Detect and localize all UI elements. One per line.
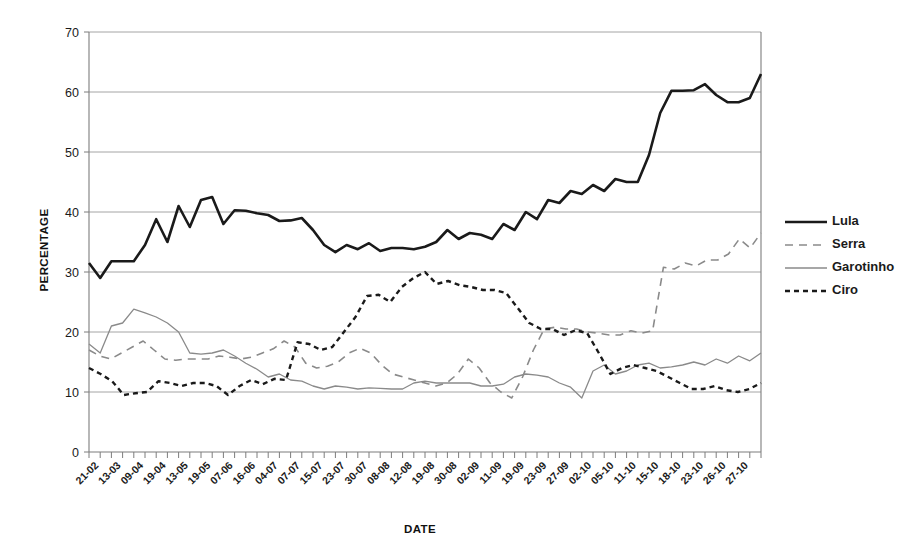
x-tick-label: 13-05 <box>163 459 191 487</box>
x-tick-label: 23-09 <box>521 459 549 487</box>
x-tick-label: 15-10 <box>633 459 661 487</box>
x-tick-label: 23-10 <box>678 459 706 487</box>
y-axis: 010203040506070 <box>65 26 761 460</box>
x-tick-label: 23-07 <box>319 459 347 487</box>
y-tick-label: 40 <box>65 206 79 220</box>
x-tick-label: 21-02 <box>73 459 101 487</box>
x-axis <box>89 452 761 458</box>
legend-label-serra: Serra <box>832 236 866 251</box>
x-tick-label: 02-10 <box>566 459 594 487</box>
x-tick-label: 08-08 <box>364 459 392 487</box>
legend-label-ciro: Ciro <box>832 282 858 297</box>
chart-canvas: 010203040506070 21-0213-0309-0419-0413-0… <box>0 0 910 551</box>
x-tick-labels: 21-0213-0309-0419-0413-0519-0507-0616-06… <box>73 459 750 487</box>
y-tick-label: 70 <box>65 26 79 40</box>
legend-label-lula: Lula <box>832 213 859 228</box>
x-tick-label: 02-09 <box>454 459 482 487</box>
x-tick-label: 13-03 <box>95 459 123 487</box>
y-axis-title: PERCENTAGE <box>38 208 50 291</box>
x-tick-label: 26-10 <box>700 459 728 487</box>
x-tick-label: 19-08 <box>409 459 437 487</box>
x-tick-label: 04-07 <box>252 459 280 487</box>
x-tick-label: 11-09 <box>477 459 504 486</box>
series-line-ciro <box>89 272 761 395</box>
grid-lines <box>89 32 761 392</box>
x-tick-label: 16-06 <box>230 459 258 487</box>
x-tick-label: 18-10 <box>655 459 683 487</box>
y-tick-label: 20 <box>65 326 79 340</box>
y-tick-label: 30 <box>65 266 79 280</box>
x-tick-label: 07-07 <box>275 459 303 487</box>
x-tick-label: 19-05 <box>185 459 213 487</box>
series-lines <box>89 74 761 398</box>
x-tick-label: 15-07 <box>297 459 325 487</box>
x-tick-label: 09-04 <box>118 459 146 487</box>
x-axis-title: DATE <box>404 523 436 535</box>
x-tick-label: 30-07 <box>342 459 370 487</box>
legend-label-garotinho: Garotinho <box>832 259 894 274</box>
x-tick-label: 30-08 <box>431 459 459 487</box>
x-tick-label: 27-09 <box>543 459 571 487</box>
y-tick-label: 0 <box>72 446 79 460</box>
y-tick-label: 10 <box>65 386 79 400</box>
x-tick-label: 19-04 <box>140 459 168 487</box>
x-tick-label: 19-09 <box>499 459 527 487</box>
series-line-lula <box>89 74 761 278</box>
x-tick-label: 07-06 <box>207 459 235 487</box>
x-tick-label: 12-08 <box>387 459 415 487</box>
y-tick-label: 60 <box>65 86 79 100</box>
line-chart-figure: 010203040506070 21-0213-0309-0419-0413-0… <box>0 0 910 551</box>
x-tick-label: 27-10 <box>723 459 751 487</box>
y-tick-label: 50 <box>65 146 79 160</box>
series-line-garotinho <box>89 309 761 398</box>
x-tick-label: 05-10 <box>588 459 616 487</box>
x-tick-label: 11-10 <box>611 459 638 486</box>
legend: LulaSerraGarotinhoCiro <box>785 213 894 297</box>
